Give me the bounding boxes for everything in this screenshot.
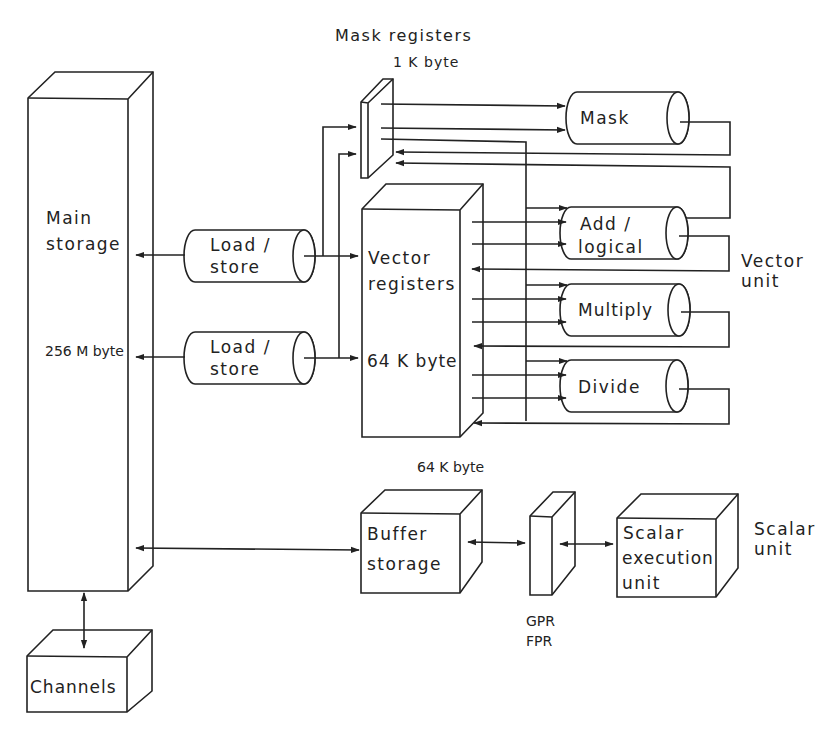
vector-registers-size: 64 K byte [367, 351, 458, 371]
buffer-storage-label: Buffer [367, 524, 428, 544]
vector-unit-label-2: unit [741, 271, 780, 291]
mask-registers-title: Mask registers [335, 26, 472, 45]
load-store-1-label-2: store [210, 257, 261, 277]
main-storage-size: 256 M byte [45, 343, 124, 359]
mask-registers-size: 1 K byte [393, 54, 459, 70]
divide-label: Divide [578, 377, 641, 397]
buffer-gpr-arrow [468, 542, 525, 543]
vector-unit-label: Vector [741, 251, 804, 271]
scalar-exec-label: Scalar [623, 523, 685, 543]
maskreg-to-mask-arrow-2 [381, 128, 565, 130]
scalar-exec-label-3: unit [622, 573, 661, 593]
channels-label: Channels [30, 677, 117, 697]
scalar-unit-label-2: unit [754, 539, 793, 559]
add-logical-label: Add / [580, 214, 632, 234]
load-store-2-label-2: store [210, 359, 261, 379]
main-storage-label: Main [46, 208, 93, 228]
gpr-label: GPR [526, 613, 555, 629]
multiply-label: Multiply [578, 300, 653, 320]
channels-block [27, 630, 152, 712]
load-store-1-label: Load / [210, 235, 271, 255]
main-buffer-arrow [136, 548, 359, 550]
vector-registers-block [362, 184, 483, 437]
vector-processor-block-diagram: Mask registers 1 K byte Main storage 256… [0, 0, 836, 740]
main-storage-block [28, 72, 153, 591]
scalar-exec-label-2: execution [622, 548, 714, 568]
scalar-unit-label: Scalar [754, 519, 816, 539]
vector-registers-label: Vector [368, 248, 431, 268]
load-store-2-label: Load / [210, 337, 271, 357]
buffer-storage-label-2: storage [367, 554, 442, 574]
buffer-storage-size: 64 K byte [417, 459, 484, 475]
add-logical-label-2: logical [578, 237, 644, 257]
vector-registers-label-2: registers [368, 274, 456, 294]
maskreg-to-mask-arrow-1 [381, 104, 565, 106]
fpr-label: FPR [526, 633, 552, 649]
main-storage-label-2: storage [46, 234, 121, 254]
mask-pipeline-label: Mask [580, 108, 630, 128]
